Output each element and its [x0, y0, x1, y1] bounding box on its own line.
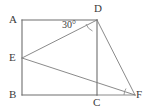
vertex-label-D: D [94, 3, 102, 14]
vertex-label-F: F [136, 89, 142, 100]
vertex-label-C: C [93, 97, 100, 108]
vertex-label-A: A [9, 14, 17, 25]
segment-ED [22, 20, 97, 58]
vertex-label-B: B [9, 89, 16, 100]
angle-label-30-degrees: 30° [62, 20, 76, 30]
geometry-figure: A D E B C F 30° [0, 0, 149, 112]
segment-EF [22, 58, 135, 95]
vertex-label-E: E [9, 52, 16, 63]
segment-DF [97, 20, 135, 95]
figure-canvas [0, 0, 149, 112]
